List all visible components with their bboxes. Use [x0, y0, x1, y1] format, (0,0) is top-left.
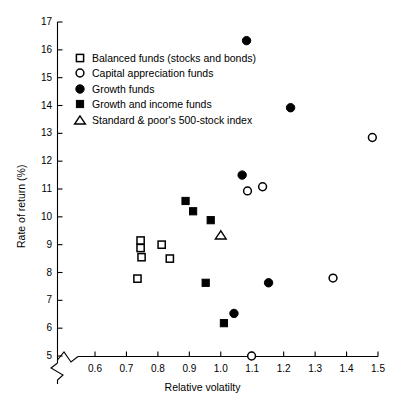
y-axis-title: Rate of return (%)	[16, 165, 27, 248]
data-point-filled-circle	[238, 171, 246, 179]
data-point-open-square	[76, 54, 83, 61]
chart-legend: Balanced funds (stocks and bonds)Capital…	[72, 50, 302, 128]
data-point-open-circle	[76, 69, 84, 77]
data-point-filled-square	[190, 208, 197, 215]
y-tick-label: 15	[28, 73, 52, 83]
data-point-open-circle	[259, 183, 267, 191]
axis-break-marks	[51, 352, 78, 384]
y-tick-label: 12	[28, 156, 52, 166]
data-point-filled-square	[76, 101, 83, 108]
data-point-open-triangle	[215, 231, 226, 239]
data-point-filled-square	[202, 279, 209, 286]
legend-marker-filled-circle	[72, 82, 88, 96]
legend-label: Growth and income funds	[92, 99, 212, 110]
legend-swatch-open-square-icon	[72, 51, 88, 65]
x-tick-label: 1.0	[204, 364, 238, 374]
data-point-open-circle	[368, 134, 376, 142]
legend-swatch-open-triangle-icon	[72, 113, 88, 127]
legend-item: Balanced funds (stocks and bonds)	[72, 50, 302, 66]
legend-label: Balanced funds (stocks and bonds)	[92, 53, 256, 64]
y-tick-label: 6	[28, 323, 52, 333]
legend-marker-filled-square	[72, 97, 88, 111]
data-point-open-circle	[329, 274, 337, 282]
data-point-filled-circle	[264, 279, 272, 287]
legend-item: Growth funds	[72, 81, 302, 97]
data-point-open-square	[134, 275, 141, 282]
legend-item: Growth and income funds	[72, 97, 302, 113]
data-point-open-square	[137, 244, 144, 251]
legend-marker-open-square	[72, 51, 88, 65]
legend-swatch-filled-square-icon	[72, 97, 88, 111]
data-point-open-triangle	[75, 116, 86, 124]
data-point-open-circle	[244, 187, 252, 195]
legend-marker-open-circle	[72, 66, 88, 80]
data-point-filled-circle	[230, 309, 238, 317]
legend-item: Standard & poor's 500-stock index	[72, 112, 302, 128]
data-point-filled-square	[207, 217, 214, 224]
legend-swatch-filled-circle-icon	[72, 82, 88, 96]
legend-marker-open-triangle	[72, 113, 88, 127]
y-tick-label: 17	[28, 17, 52, 27]
data-point-filled-circle	[76, 85, 84, 93]
data-point-open-square	[138, 254, 145, 261]
data-point-filled-square	[220, 320, 227, 327]
x-tick-label: 0.7	[109, 364, 143, 374]
data-point-filled-circle	[242, 36, 250, 44]
data-point-open-square	[158, 241, 165, 248]
data-point-open-square	[166, 255, 173, 262]
x-tick-label: 1.1	[235, 364, 269, 374]
y-tick-label: 8	[28, 268, 52, 278]
legend-label: Capital appreciation funds	[92, 68, 213, 79]
scatter-plot-figure: 171615141312111098765 0.60.70.80.91.01.1…	[0, 0, 405, 410]
x-tick-label: 1.4	[330, 364, 364, 374]
x-tick-label: 1.3	[298, 364, 332, 374]
x-tick-label: 1.2	[267, 364, 301, 374]
x-tick-label: 0.8	[141, 364, 175, 374]
y-tick-label: 9	[28, 240, 52, 250]
x-axis-title: Relative volatilty	[0, 382, 405, 393]
legend-item: Capital appreciation funds	[72, 66, 302, 82]
y-tick-label: 10	[28, 212, 52, 222]
y-tick-label: 7	[28, 295, 52, 305]
data-point-filled-square	[182, 197, 189, 204]
data-point-open-circle	[248, 352, 256, 360]
x-tick-label: 0.6	[78, 364, 112, 374]
data-point-open-square	[137, 237, 144, 244]
legend-label: Growth funds	[92, 84, 154, 95]
y-tick-label: 16	[28, 45, 52, 55]
x-tick-label: 0.9	[172, 364, 206, 374]
x-tick-label: 1.5	[361, 364, 395, 374]
legend-label: Standard & poor's 500-stock index	[92, 115, 252, 126]
y-tick-label: 14	[28, 101, 52, 111]
y-tick-label: 5	[28, 351, 52, 361]
legend-swatch-open-circle-icon	[72, 66, 88, 80]
y-tick-label: 11	[28, 184, 52, 194]
y-tick-label: 13	[28, 128, 52, 138]
